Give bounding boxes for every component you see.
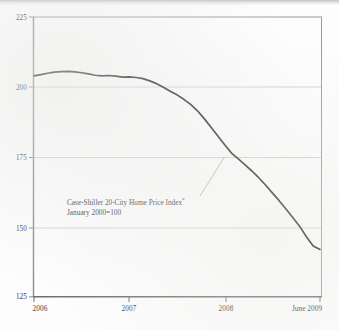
xtick-label-2007: 2007: [122, 305, 137, 313]
y-tick-marks: [29, 17, 33, 297]
figure-container: 225 200 175 150 125 2006 2007 2008 June …: [0, 0, 339, 330]
line-chart: 225 200 175 150 125 2006 2007 2008 June …: [0, 0, 339, 330]
plot-frame: [33, 17, 322, 297]
ytick-label-200: 200: [16, 84, 27, 92]
ytick-label-175: 175: [16, 154, 27, 162]
annotation-superscript: *: [182, 197, 185, 203]
series-line-case-shiller: [34, 71, 320, 249]
xtick-label-2008: 2008: [219, 305, 234, 313]
xtick-label-june2009: June 2009: [292, 305, 323, 313]
annotation-line-1-text: Case-Shiller 20-City Home Price Index: [67, 198, 182, 207]
ytick-label-225: 225: [16, 14, 27, 22]
ytick-label-150: 150: [16, 225, 27, 233]
annotation-leader-line: [200, 157, 225, 196]
xtick-label-2006: 2006: [33, 305, 48, 313]
x-tick-marks: [34, 297, 320, 302]
annotation-line-2: January 2000=100: [67, 208, 122, 217]
ytick-label-125: 125: [16, 293, 27, 301]
annotation-line-1: Case-Shiller 20-City Home Price Index*: [67, 197, 185, 207]
